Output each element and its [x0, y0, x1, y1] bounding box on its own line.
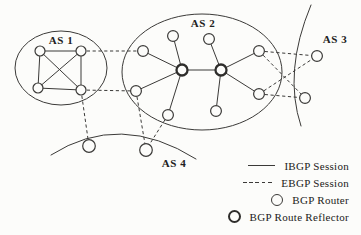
bgp-router-node-a3	[33, 83, 43, 93]
bgp-router-icon	[271, 194, 283, 206]
bgp-router-node-b7	[163, 110, 174, 121]
legend-label-router: BGP Router	[292, 194, 349, 206]
bgp-router-node-b3	[204, 34, 215, 45]
ibgp-session-link-rl-b7	[168, 70, 182, 115]
bgp-router-node-d2	[140, 144, 153, 157]
bgp-route-reflector-icon	[228, 210, 241, 223]
bgp-router-node-b4	[254, 46, 265, 57]
legend: IBGP Session EBGP Session BGP Router BGP…	[228, 159, 349, 223]
ibgp-session-lines	[38, 36, 259, 115]
figure-canvas: AS 1AS 2AS 3AS 4 IBGP Session EBGP Sessi…	[0, 0, 361, 235]
legend-label-ebgp: EBGP Session	[281, 177, 349, 189]
legend-row-reflector: BGP Route Reflector	[228, 210, 349, 223]
ebgp-session-link-b4-c1	[259, 51, 317, 56]
ibgp-session-link-rr-b6	[221, 70, 259, 94]
as-region-outlines	[15, 5, 311, 159]
bgp-router-node-c2	[300, 93, 311, 104]
bgp-router-node-b6	[254, 89, 265, 100]
as-region-outline-as4	[51, 134, 196, 159]
ebgp-session-link-a4-b5	[81, 90, 136, 91]
as-label-as1: AS 1	[49, 34, 73, 46]
legend-row-ebgp: EBGP Session	[243, 176, 349, 189]
bgp-router-node-b2	[168, 31, 179, 42]
legend-row-ibgp: IBGP Session	[248, 159, 349, 172]
bgp-router-node-a1	[35, 46, 45, 56]
ibgp-session-link-rl-b5	[136, 70, 182, 91]
ibgp-session-link-a2-a3	[38, 51, 81, 88]
ebgp-session-link-b6-c1	[259, 56, 317, 94]
ibgp-session-link-a3-a4	[38, 88, 81, 90]
bgp-router-node-b5	[131, 86, 142, 97]
bgp-route-reflector-node-rr	[216, 65, 227, 76]
ebgp-session-link-b6-c2	[259, 94, 305, 98]
bgp-router-node-b8	[211, 106, 222, 117]
legend-label-reflector: BGP Route Reflector	[250, 211, 349, 223]
legend-label-ibgp: IBGP Session	[284, 160, 349, 172]
as-region-outline-as3	[294, 5, 311, 126]
bgp-router-node-a4	[76, 85, 86, 95]
ibgp-line-icon	[248, 165, 275, 166]
legend-row-router: BGP Router	[271, 193, 349, 206]
router-nodes	[33, 31, 322, 157]
as-label-as2: AS 2	[191, 17, 215, 29]
ebgp-session-link-b5-d2	[136, 91, 146, 150]
as-region-outline-as2	[122, 14, 282, 130]
as-label-as3: AS 3	[323, 33, 347, 45]
bgp-router-node-d1	[83, 140, 96, 153]
ebgp-line-icon	[243, 182, 272, 184]
bgp-router-node-c1	[312, 51, 323, 62]
bgp-route-reflector-node-rl	[177, 65, 188, 76]
bgp-router-node-a2	[76, 46, 86, 56]
bgp-router-node-b1	[138, 46, 149, 57]
as-label-as4: AS 4	[162, 157, 186, 169]
